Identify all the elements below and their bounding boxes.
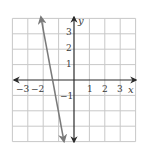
x-axis-label: x xyxy=(128,84,134,95)
x-tick-2: 2 xyxy=(102,84,108,94)
y-tick-2: 2 xyxy=(66,43,72,53)
x-tick-1: 1 xyxy=(87,84,93,94)
y-tick-minus-1: −1 xyxy=(60,91,73,101)
y-tick-1: 1 xyxy=(66,59,72,69)
x-tick-3: 3 xyxy=(117,84,123,94)
coordinate-plane: y x −3 −2 1 2 3 3 2 1 −1 xyxy=(0,0,142,155)
plotted-line xyxy=(41,17,64,142)
y-tick-3: 3 xyxy=(66,27,72,37)
y-axis-label: y xyxy=(77,15,84,26)
x-tick-minus-2: −2 xyxy=(31,84,44,94)
x-tick-minus-3: −3 xyxy=(16,84,30,94)
